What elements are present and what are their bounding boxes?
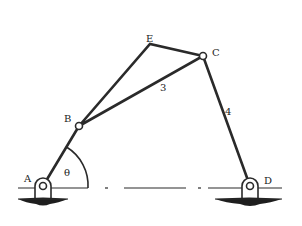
crank-link-AB [43,126,79,186]
label-link-3: 3 [160,82,166,93]
label-B: B [64,113,71,124]
rocker-link-4 [203,56,250,186]
label-D: D [264,175,272,186]
label-E: E [146,33,153,44]
label-C: C [212,47,220,58]
label-A: A [23,173,32,184]
label-link-4: 4 [225,106,231,117]
linkage-diagram: A B C D E 3 4 θ [0,0,302,226]
joint-B-icon [76,123,83,130]
joint-C-icon [200,53,207,60]
joint-A-icon [40,183,47,190]
joint-D-icon [247,183,254,190]
coupler-link-3 [79,44,203,126]
label-theta: θ [64,167,70,178]
